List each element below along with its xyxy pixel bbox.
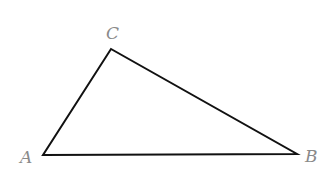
vertex-label-b: B xyxy=(304,146,318,166)
triangle-diagram: A B C xyxy=(0,0,327,169)
vertex-label-a: A xyxy=(18,147,32,167)
vertex-label-c: C xyxy=(106,23,119,43)
triangle-abc xyxy=(43,49,297,155)
